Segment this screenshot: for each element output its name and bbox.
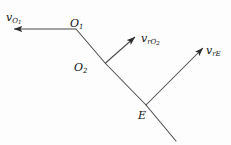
- vector-label-v-o1: vO1: [6, 8, 21, 26]
- vector-label-v-ro2: vrO2: [141, 29, 160, 47]
- point-label-o2: O2: [74, 58, 88, 75]
- vector-diagram-figure: vO1 vrO2 vrE O1 O2 E: [0, 0, 231, 145]
- vector-v-ro2: [106, 37, 136, 63]
- vector-label-v-ro2-sub: rO2: [147, 38, 160, 46]
- vector-v-re: [146, 48, 203, 105]
- segment-e-tail: [146, 105, 176, 141]
- vector-label-v-re-sub: rE: [212, 50, 220, 58]
- vector-label-v-re: vrE: [206, 41, 221, 59]
- segment-o2-e: [106, 64, 147, 106]
- point-label-e: E: [138, 106, 146, 123]
- vector-label-v-o1-sub: O1: [12, 17, 21, 25]
- point-label-o1: O1: [70, 14, 84, 31]
- diagram-canvas: [0, 0, 231, 145]
